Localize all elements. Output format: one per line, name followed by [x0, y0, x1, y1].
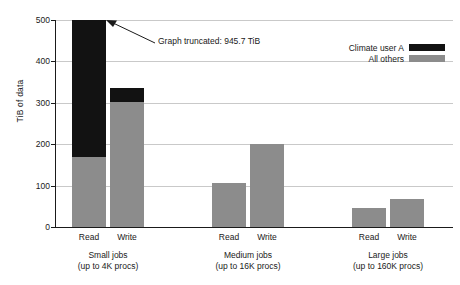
- bar-small-read-climate-user-a: [72, 20, 106, 157]
- x-tick-label-small-write: Write: [107, 232, 147, 242]
- group-label-large-name: Large jobs: [326, 250, 450, 261]
- x-axis-line: [55, 227, 453, 228]
- bar-small-read-all-others: [72, 157, 106, 227]
- y-tick-label-300: 300: [22, 98, 50, 108]
- legend-item-climate-user-a: Climate user A: [300, 42, 445, 53]
- y-tick-label-200: 200: [22, 139, 50, 149]
- group-label-medium-sub: (up to 16K procs): [187, 261, 309, 272]
- legend-item-all-others: All others: [300, 53, 445, 64]
- group-label-medium: Medium jobs (up to 16K procs): [187, 250, 309, 271]
- bar-large-read-all-others: [352, 208, 386, 227]
- gridline-500: [55, 20, 453, 21]
- truncation-annotation-label: Graph truncated: 945.7 TiB: [158, 36, 260, 46]
- legend-swatch-climate-user-a: [409, 44, 445, 51]
- legend: Climate user A All others: [300, 42, 445, 64]
- y-tick-label-100: 100: [22, 181, 50, 191]
- y-tick-label-0: 0: [22, 222, 50, 232]
- chart-container: TiB of data 500 400 300 200 100 0 Read W…: [0, 0, 460, 285]
- legend-label-climate-user-a: Climate user A: [349, 43, 404, 53]
- group-label-large-sub: (up to 160K procs): [326, 261, 450, 272]
- legend-label-all-others: All others: [369, 54, 404, 64]
- group-label-large: Large jobs (up to 160K procs): [326, 250, 450, 271]
- x-tick-label-small-read: Read: [69, 232, 109, 242]
- y-tick-label-500: 500: [22, 15, 50, 25]
- group-label-small-name: Small jobs: [48, 250, 168, 261]
- group-label-medium-name: Medium jobs: [187, 250, 309, 261]
- bar-small-write-all-others: [110, 102, 144, 227]
- bar-medium-read-all-others: [212, 183, 246, 227]
- x-tick-label-large-write: Write: [387, 232, 427, 242]
- x-tick-label-medium-write: Write: [247, 232, 287, 242]
- group-label-small-sub: (up to 4K procs): [48, 261, 168, 272]
- x-tick-label-large-read: Read: [349, 232, 389, 242]
- y-axis-line: [55, 20, 56, 228]
- group-label-small: Small jobs (up to 4K procs): [48, 250, 168, 271]
- bar-small-write-climate-user-a: [110, 88, 144, 102]
- y-tick-label-400: 400: [22, 56, 50, 66]
- x-tick-label-medium-read: Read: [209, 232, 249, 242]
- bar-large-write-all-others: [390, 199, 424, 227]
- legend-swatch-all-others: [409, 55, 445, 62]
- bar-medium-write-all-others: [250, 144, 284, 227]
